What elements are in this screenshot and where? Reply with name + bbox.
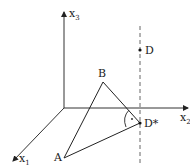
x1-axis-label: x1 xyxy=(19,152,30,166)
point-D-star-label: D* xyxy=(144,117,159,130)
x3-axis-label: x3 xyxy=(69,7,80,22)
right-angle-arc xyxy=(125,110,129,127)
point-D-label: D xyxy=(145,44,154,57)
point-D-star xyxy=(138,121,141,124)
triangle-ABD-star xyxy=(64,82,140,158)
x2-axis-label: x2 xyxy=(180,111,190,126)
diagram-canvas: x3 x2 x1 A B D D* xyxy=(0,0,190,166)
point-D xyxy=(138,48,141,51)
point-B-label: B xyxy=(98,67,106,80)
right-angle-dot xyxy=(131,118,133,120)
point-A-label: A xyxy=(53,151,63,164)
